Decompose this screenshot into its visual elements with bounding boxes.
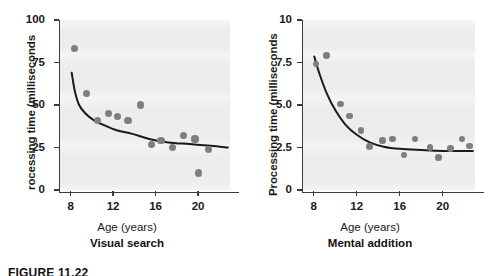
fit-curve xyxy=(247,0,493,258)
data-point xyxy=(358,127,365,134)
data-point xyxy=(137,101,144,108)
data-point xyxy=(124,117,131,124)
data-point xyxy=(427,144,434,151)
panel-title-mental-addition: Mental addition xyxy=(263,237,477,249)
data-point xyxy=(195,169,202,176)
data-point xyxy=(435,154,442,161)
data-point xyxy=(323,52,330,59)
data-point xyxy=(366,143,373,150)
figure-caption: FIGURE 11.22 xyxy=(8,266,88,276)
chart-panel-visual-search: rocessing time (milliseconds 02550751008… xyxy=(0,0,246,258)
data-point xyxy=(148,141,155,148)
data-point xyxy=(157,137,164,144)
x-axis-label: Age (years) xyxy=(263,221,477,233)
figure: rocessing time (milliseconds 02550751008… xyxy=(0,0,493,276)
data-point xyxy=(346,113,353,120)
data-point xyxy=(466,143,473,150)
panel-title-visual-search: Visual search xyxy=(22,237,232,249)
data-point xyxy=(389,136,396,143)
data-point xyxy=(83,90,90,97)
data-point xyxy=(180,132,187,139)
data-point xyxy=(94,117,101,124)
data-point xyxy=(191,135,198,142)
chart-panel-mental-addition: Processing time (milliseconds 02.55.07.5… xyxy=(247,0,493,258)
fit-curve xyxy=(0,0,246,258)
data-point xyxy=(447,145,454,152)
data-point xyxy=(379,137,386,144)
x-axis-label: Age (years) xyxy=(22,221,232,233)
